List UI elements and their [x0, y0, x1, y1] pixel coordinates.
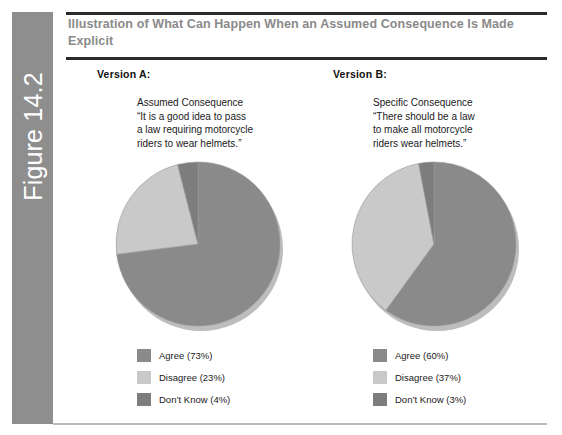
statement-line: to make all motorcycle	[373, 123, 541, 137]
legend-label-agree: Agree (60%)	[395, 350, 448, 361]
statement-line: a law requiring motorcycle	[137, 123, 305, 137]
version-a-statement: Assumed Consequence “It is a good idea t…	[137, 96, 305, 150]
version-b-legend: Agree (60%) Disagree (37%) Don’t Know (3…	[373, 344, 543, 410]
version-a-legend: Agree (73%) Disagree (23%) Don’t Know (4…	[137, 344, 307, 410]
legend-label-agree: Agree (73%)	[159, 350, 212, 361]
legend-swatch-agree	[373, 349, 387, 362]
bottom-rule	[53, 423, 547, 425]
version-a-column: Version A: Assumed Consequence “It is a …	[93, 68, 303, 418]
statement-line: Specific Consequence	[373, 96, 541, 110]
legend-item-dont-know: Don’t Know (3%)	[373, 388, 543, 410]
legend-label-dont-know: Don’t Know (4%)	[159, 394, 230, 405]
legend-label-dont-know: Don’t Know (3%)	[395, 394, 466, 405]
statement-line: “It is a good idea to pass	[137, 110, 305, 124]
pie-svg: Agree (60%)Disagree (37%)Don't Know (3%)	[345, 158, 525, 340]
legend-item-dont-know: Don’t Know (4%)	[137, 388, 307, 410]
statement-line: riders wear helmets.”	[373, 137, 541, 151]
legend-swatch-dont-know	[137, 393, 151, 406]
figure-number-label: Figure 14.2	[20, 72, 45, 201]
version-a-pie-chart: Agree (73%)Disagree (23%)Don't Know (4%)	[109, 158, 289, 340]
statement-line: Assumed Consequence	[137, 96, 305, 110]
legend-item-disagree: Disagree (23%)	[137, 366, 307, 388]
title-divider-rule	[66, 57, 547, 60]
statement-line: “There should be a law	[373, 110, 541, 124]
version-b-heading: Version B:	[333, 68, 387, 80]
legend-label-disagree: Disagree (37%)	[395, 372, 461, 383]
legend-item-agree: Agree (60%)	[373, 344, 543, 366]
version-a-heading: Version A:	[97, 68, 151, 80]
legend-swatch-disagree	[373, 371, 387, 384]
figure-container: Figure 14.2 Illustration of What Can Hap…	[0, 0, 562, 435]
legend-item-disagree: Disagree (37%)	[373, 366, 543, 388]
figure-title-line-1: Illustration of What Can Happen When an …	[68, 17, 464, 31]
version-b-statement: Specific Consequence “There should be a …	[373, 96, 541, 150]
version-b-pie-chart: Agree (60%)Disagree (37%)Don't Know (3%)	[345, 158, 525, 340]
figure-title: Illustration of What Can Happen When an …	[68, 16, 538, 50]
top-rule	[66, 12, 547, 15]
legend-swatch-disagree	[137, 371, 151, 384]
figure-number-spine: Figure 14.2	[12, 12, 53, 424]
legend-label-disagree: Disagree (23%)	[159, 372, 225, 383]
legend-swatch-agree	[137, 349, 151, 362]
statement-line: riders to wear helmets.”	[137, 137, 305, 151]
version-b-column: Version B: Specific Consequence “There s…	[329, 68, 539, 418]
legend-swatch-dont-know	[373, 393, 387, 406]
figure-panel: Illustration of What Can Happen When an …	[53, 0, 547, 435]
pie-svg: Agree (73%)Disagree (23%)Don't Know (4%)	[109, 158, 289, 340]
legend-item-agree: Agree (73%)	[137, 344, 307, 366]
